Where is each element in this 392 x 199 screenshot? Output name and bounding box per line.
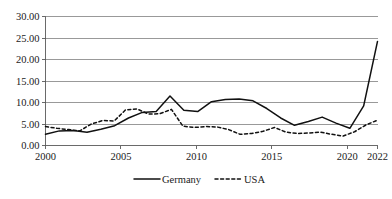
y-tick-label: 0.00 (21, 140, 39, 151)
x-tick-label: 2000 (35, 151, 56, 162)
y-tick-label: 25.00 (16, 33, 40, 44)
x-tick-label: 2010 (186, 151, 207, 162)
data-series (46, 41, 378, 136)
series-line-usa (46, 109, 378, 136)
gridlines (46, 17, 378, 125)
series-line-germany (46, 41, 378, 134)
x-tick-label: 2015 (261, 151, 282, 162)
chart-legend: GermanyUSA (134, 174, 265, 185)
y-tick-label: 10.00 (16, 97, 40, 108)
x-tick-label: 2020 (337, 151, 358, 162)
legend-label-usa: USA (244, 174, 265, 185)
y-tick-label: 20.00 (16, 54, 40, 65)
y-tick-label: 30.00 (16, 11, 40, 22)
line-chart: 0.005.0010.0015.0020.0025.0030.00 200020… (0, 0, 392, 199)
legend-label-germany: Germany (162, 174, 202, 185)
x-axis-tick-labels: 200020052010201520202022 (35, 146, 388, 162)
y-axis-tick-labels: 0.005.0010.0015.0020.0025.0030.00 (16, 11, 46, 151)
y-tick-label: 5.00 (21, 119, 39, 130)
y-tick-label: 15.00 (16, 76, 40, 87)
x-tick-label: 2022 (367, 151, 388, 162)
x-tick-label: 2005 (110, 151, 131, 162)
chart-container: 0.005.0010.0015.0020.0025.0030.00 200020… (0, 0, 392, 199)
